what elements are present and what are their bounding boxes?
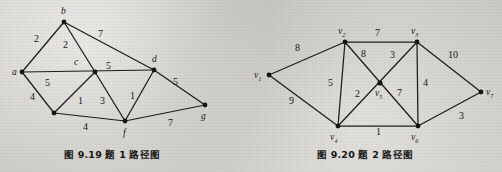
vertex-d (152, 68, 157, 73)
weight-d-g: 5 (173, 76, 178, 87)
vertex-label-v4: v4 (330, 132, 337, 144)
weight-v4-v6: 1 (376, 126, 381, 137)
weight-b-d: 7 (98, 28, 103, 39)
edge-v1-v2 (269, 42, 345, 75)
weight-v1-v2: 8 (295, 42, 300, 53)
weight-v1-v4: 9 (289, 95, 294, 106)
vertex-label-a: a (12, 67, 17, 77)
vertex-v1 (267, 73, 272, 78)
weight-f-g: 7 (168, 117, 173, 128)
vertex-label-v2: v2 (338, 26, 345, 38)
weight-c-e: 5 (45, 77, 50, 88)
edge-v6-v7 (418, 92, 481, 126)
weight-v3-v6: 4 (423, 77, 428, 88)
vertex-v2 (343, 40, 348, 45)
vertex-label-d: d (152, 54, 157, 64)
weight-v6-v7: 3 (459, 110, 464, 121)
weight-c-f: 3 (100, 95, 105, 106)
vertex-v5 (377, 80, 382, 85)
edge-e-f (54, 113, 125, 121)
edge-v3-v6 (417, 42, 418, 126)
vertex-e (52, 111, 57, 116)
edge-a-d (22, 70, 154, 72)
weight-e-f: 4 (83, 121, 88, 132)
edge-v3-v4 (338, 42, 417, 126)
vertex-label-v5: v5 (375, 88, 382, 100)
edges-group-left (22, 22, 205, 121)
vertex-g (203, 103, 208, 108)
figure-9-20-caption: 图 9.20 题 2 路径图 (317, 147, 413, 161)
vertex-label-c: c (74, 57, 79, 67)
weight-v2-v3: 7 (375, 27, 380, 38)
vertex-label-b: b (61, 6, 66, 16)
vertex-a (20, 70, 25, 75)
weight-v2-v4: 5 (328, 77, 333, 88)
weight-a-d: 5 (106, 60, 111, 71)
vertex-label-f: f (123, 128, 127, 138)
edge-v2-v4 (338, 42, 345, 126)
vertex-label-v1: v1 (254, 70, 261, 82)
edge-a-b (22, 22, 64, 72)
weight-a-e: 4 (30, 91, 35, 102)
weight-v3-v7: 10 (448, 49, 458, 60)
edge-f-g (125, 105, 205, 121)
weight-c-e-inner: 1 (78, 95, 83, 106)
weight-b-c: 2 (63, 39, 68, 50)
weight-a-b: 2 (34, 33, 39, 44)
vertex-v6 (416, 124, 421, 129)
edge-b-c (64, 22, 95, 72)
weight-labels-right: 8 9 7 5 8 3 4 10 2 1 7 3 (289, 27, 464, 137)
edge-c-e (54, 72, 95, 113)
weight-v3-v4: 3 (390, 49, 395, 60)
figure-9-19-caption: 图 9.19 题 1 路径图 (64, 147, 160, 161)
weight-v2-v6: 8 (361, 48, 366, 59)
vertex-v7 (479, 90, 484, 95)
vertex-f (123, 119, 128, 124)
weight-v4-v5: 2 (355, 88, 360, 99)
edge-d-g (154, 70, 205, 105)
vertex-v4 (336, 124, 341, 129)
weight-v5-v6: 7 (397, 87, 402, 98)
vertex-label-v7: v7 (486, 87, 494, 99)
vertex-v3 (415, 40, 420, 45)
scanned-page: a b c d f g 2 2 7 5 4 5 3 4 1 1 5 7 (0, 0, 502, 172)
weight-d-f: 1 (130, 90, 135, 101)
vertex-b (62, 20, 67, 25)
vertex-label-g: g (201, 111, 206, 121)
vertex-c (93, 70, 98, 75)
vertex-label-v6: v6 (411, 132, 419, 144)
vertex-label-v3: v3 (411, 26, 418, 38)
